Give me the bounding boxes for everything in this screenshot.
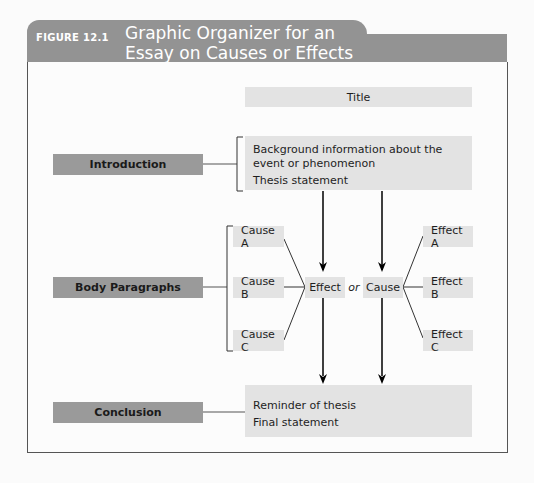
intro-background-text: Background information about the event o… — [253, 143, 464, 171]
or-connector: or — [345, 277, 363, 298]
introduction-content: Background information about the event o… — [245, 136, 472, 190]
conclusion-reminder-text: Reminder of thesis — [253, 399, 464, 413]
conclusion-label: Conclusion — [53, 402, 203, 423]
body-paragraphs-label: Body Paragraphs — [53, 277, 203, 298]
cause-c-box: Cause C — [233, 330, 284, 351]
cause-box: Cause — [363, 277, 403, 298]
cause-b-box: Cause B — [233, 277, 284, 298]
effect-b-box: Effect B — [423, 277, 473, 298]
effect-a-box: Effect A — [423, 226, 473, 247]
conclusion-final-text: Final statement — [253, 416, 464, 430]
cause-a-box: Cause A — [233, 226, 284, 247]
effect-box: Effect — [305, 277, 345, 298]
conclusion-content: Reminder of thesis Final statement — [245, 385, 472, 437]
introduction-label: Introduction — [53, 154, 203, 175]
intro-thesis-text: Thesis statement — [253, 174, 464, 188]
effect-c-box: Effect C — [423, 330, 473, 351]
